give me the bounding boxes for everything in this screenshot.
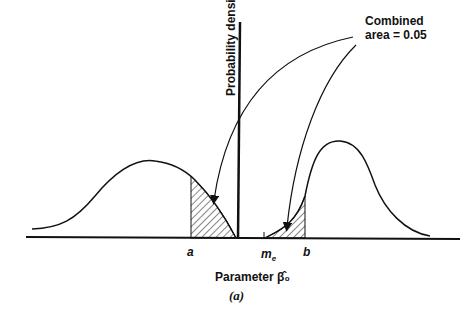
tick-label-me-main: m bbox=[261, 247, 272, 261]
x-axis-label: Parameter β̂₀ bbox=[215, 270, 290, 284]
tick-label-a: a bbox=[187, 245, 194, 259]
x-axis-label-text: Parameter bbox=[215, 270, 274, 284]
x-axis-symbol: β̂₀ bbox=[277, 270, 290, 284]
annotation-line2: area = 0.05 bbox=[365, 28, 427, 42]
y-axis-label-text: Probability density bbox=[224, 0, 238, 96]
left-tail-shaded-area bbox=[191, 176, 236, 238]
y-axis-label: Probability density f(β̂₀) bbox=[224, 0, 238, 96]
annotation-arrow-right bbox=[287, 45, 356, 227]
y-axis bbox=[238, 22, 240, 239]
tick-label-me: me bbox=[261, 247, 276, 263]
annotation-line1: Combined bbox=[365, 14, 427, 28]
annotation-label: Combined area = 0.05 bbox=[365, 14, 427, 42]
tick-label-b: b bbox=[303, 245, 310, 259]
tick-label-me-sub: e bbox=[272, 254, 276, 263]
panel-label: (a) bbox=[229, 288, 244, 304]
x-axis bbox=[26, 237, 460, 239]
right-tail-shaded-area bbox=[265, 196, 305, 238]
